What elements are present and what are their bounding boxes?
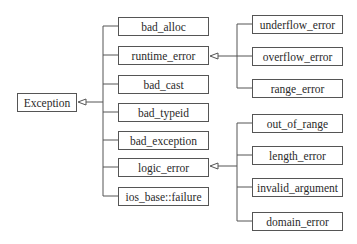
class-node-range-error: range_error [252,79,343,98]
runtime-error-generalization-connector [210,24,252,88]
class-node-ios-base-failure: ios_base::failure [118,187,209,206]
class-node-label: overflow_error [263,51,333,63]
class-node-out-of-range: out_of_range [252,114,343,133]
class-node-logic-error: logic_error [118,158,209,177]
generalization-arrow-icon [78,99,86,105]
class-node-label: runtime_error [132,50,196,62]
class-node-label: bad_typeid [138,107,189,119]
class-node-label: logic_error [138,162,189,174]
class-node-bad-exception: bad_exception [118,131,209,150]
generalization-arrow-icon [210,163,218,169]
class-node-label: ios_base::failure [125,191,201,203]
class-node-label: bad_alloc [141,21,186,33]
class-node-exception: Exception [17,93,77,112]
class-node-label: domain_error [266,216,329,228]
class-node-label: Exception [24,97,71,109]
class-node-invalid-argument: invalid_argument [252,178,343,197]
exception-generalization-connector [78,26,118,196]
class-node-bad-cast: bad_cast [118,75,209,94]
class-node-label: bad_exception [130,135,197,147]
class-node-label: length_error [269,150,326,162]
logic-error-generalization-connector [210,123,252,221]
generalization-arrow-icon [210,53,218,59]
class-node-length-error: length_error [252,146,343,165]
class-node-label: invalid_argument [257,182,338,194]
class-node-domain-error: domain_error [252,212,343,231]
class-node-overflow-error: overflow_error [252,47,343,66]
class-node-bad-alloc: bad_alloc [118,17,209,36]
class-node-underflow-error: underflow_error [252,15,343,34]
class-node-bad-typeid: bad_typeid [118,103,209,122]
exception-hierarchy-diagram: Exceptionbad_allocruntime_errorbad_castb… [0,0,357,244]
class-node-label: out_of_range [267,118,328,130]
class-node-runtime-error: runtime_error [118,46,209,65]
class-node-label: bad_cast [143,79,183,91]
class-node-label: range_error [271,83,325,95]
class-node-label: underflow_error [260,19,335,31]
